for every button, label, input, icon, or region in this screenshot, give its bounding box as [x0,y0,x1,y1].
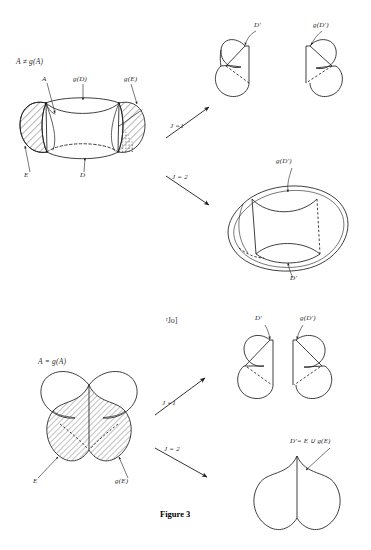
outer-ellipse [228,186,348,271]
upper-left-edge [220,50,221,66]
chord-diagonal [226,46,245,66]
figure-vector-canvas [0,0,371,550]
top-right-leaders [245,31,322,45]
leader-gE [131,84,137,104]
leader-union [306,448,330,470]
body-bottom-hidden [47,144,118,152]
chord-diagonal-hidden [294,367,320,385]
arrow-label-top-j1: J =1 [170,123,184,130]
label-gE-bottom: g(E) [115,478,128,485]
bottom-saddle [256,244,320,255]
top-right-shape-left [215,40,249,97]
leader-gE-bottom [119,457,128,478]
bottom-left-leaders [38,457,128,478]
bottom-arrow-j2 [155,448,207,477]
lower-lobe [238,366,273,399]
body-top-curve [46,103,119,114]
label-gD: g(D) [73,76,87,83]
left-chord [293,340,296,385]
body-bottom-edge [47,152,118,159]
label-gE: g(E) [124,76,137,83]
label-E-bottom: E [33,478,37,485]
label-union-bottom-j2: D'= E ∪ g(E) [290,438,331,445]
leader-Dprime [245,31,256,45]
upper-lobe [244,335,270,366]
lower-lobe [215,66,249,97]
arrow-label-bottom-j1: J =1 [162,400,176,407]
lower-lobe [296,366,332,399]
bottom-arrow-j1 [155,378,205,415]
top-right-large-leaders [288,168,293,278]
top-left-solid-shape [20,98,145,159]
label-gDprime-j2: g(D') [276,158,292,165]
label-gDprime-bottom-j1: g(D') [300,315,316,322]
bottom-left-condition-label: A = g(A) [38,358,66,366]
leader-D [84,158,85,172]
bottom-right-shape-right [293,335,332,398]
bottom-right-shape-left [238,335,273,398]
top-right-shape-right [306,40,342,97]
label-E-top: E [24,172,28,179]
upper-lobe [221,40,245,68]
right-vertical-seam [118,103,119,152]
figure-caption: Figure 3 [160,509,190,519]
body-top-edge [46,98,119,103]
outer-ellipse-inner [234,190,344,267]
bottom-right-leaders [265,325,303,339]
upper-lobe [296,335,325,367]
leader-E [25,146,30,172]
right-seam-hidden [317,199,320,254]
top-saddle [252,199,317,212]
chord-diagonal-hidden [226,66,249,83]
chord-diagonal-hidden [247,367,272,385]
bottom-saddle-front [256,254,320,263]
top-right-large-shape [228,186,348,271]
figure-3-illustration: A ≠ g(A) A g(D) g(E) E D D' g(D') g(D') … [0,0,371,550]
left-seam [252,199,256,254]
left-vertical-seam [46,103,47,152]
chord-diagonal [310,46,332,66]
top-left-condition-label: A ≠ g(A) [16,58,43,66]
label-A: A [42,76,46,83]
bottom-left-shape [41,371,137,460]
label-Dprime-j1: D' [254,22,261,29]
label-Dprime-j2: D' [290,275,297,282]
right-chord [270,340,273,385]
left-inner-diagonal [46,103,55,150]
leader-E-bottom [38,457,58,478]
arrow-label-bottom-j2: J = 2 [164,446,180,453]
upper-lobe [310,40,336,69]
chord-diagonal [296,340,322,366]
bottom-right-heart-leader [306,448,330,470]
label-gDprime-j1: g(D') [313,22,329,29]
chord-diagonal [245,340,270,366]
leader-gDprime-big [288,168,292,192]
lower-lobe [310,66,342,97]
page-artifact-text: ʳJo] [166,316,178,325]
left-chord-upper [306,46,310,83]
right-chord-upper [245,46,249,83]
bottom-right-heart [254,456,340,530]
label-D-top: D [80,172,85,179]
label-Dprime-bottom-j1: D' [255,315,262,322]
arrow-label-top-j2: J = 2 [172,174,188,181]
lobe-join [304,366,325,367]
